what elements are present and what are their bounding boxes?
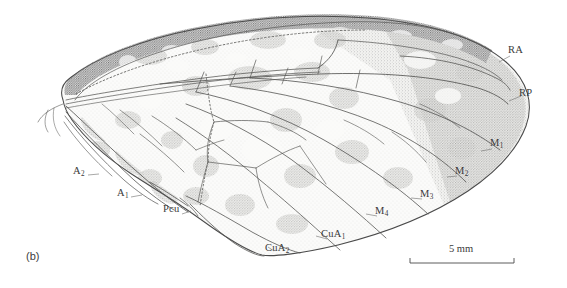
vein-label-CuA1: CuA1	[321, 228, 345, 239]
vein-label-M4: M4	[375, 205, 388, 216]
vein-label-M2: M2	[455, 165, 468, 176]
vein-label-CuA2: CuA2	[265, 242, 289, 253]
vein-label-A2: A2	[73, 165, 85, 176]
vein-label-A1: A1	[117, 187, 129, 198]
vein-label-RP: RP	[519, 87, 532, 98]
scale-bar-label: 5 mm	[408, 243, 514, 254]
wing-venation-figure: RA RP M1 M2 M3 M4 CuA1 CuA2 Pcu A1 A2 5 …	[0, 0, 567, 288]
vein-label-RA: RA	[508, 44, 523, 55]
vein-label-Pcu: Pcu	[163, 203, 179, 214]
vein-label-M3: M3	[420, 188, 433, 199]
vein-label-M1: M1	[490, 137, 503, 148]
panel-caption: (b)	[26, 250, 39, 262]
scale-bar: 5 mm	[408, 243, 514, 269]
